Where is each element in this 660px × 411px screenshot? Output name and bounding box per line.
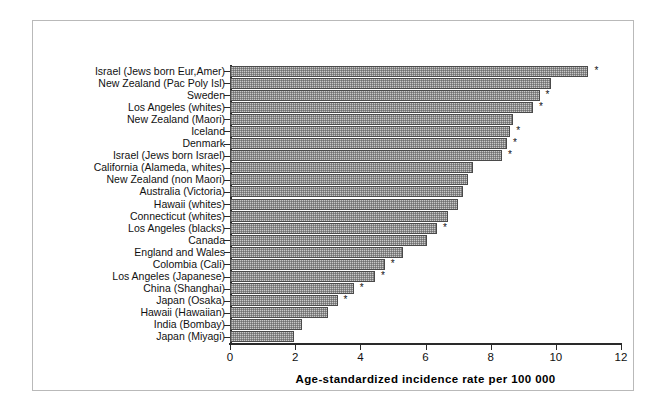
bars-container: ***********: [230, 65, 621, 343]
bar-rect: [230, 126, 510, 137]
significance-star-3: *: [546, 89, 550, 100]
bar-17: [230, 259, 385, 270]
bar-22: [230, 319, 302, 330]
bar-3: [230, 90, 540, 101]
y-label-17: Colombia (Cali): [153, 259, 225, 270]
x-tick-label-12: 12: [606, 351, 636, 364]
figure-frame: Israel (Jews born Eur,Amer)New Zealand (…: [32, 20, 634, 391]
bar-rect: [230, 259, 385, 270]
x-tick-6: [426, 344, 427, 350]
bar-8: [230, 150, 502, 161]
y-label-2: New Zealand (Pac Poly Isl): [98, 78, 225, 89]
y-label-7: Denmark: [182, 138, 225, 149]
significance-star-4: *: [539, 101, 543, 112]
bar-9: [230, 162, 473, 173]
x-axis-title: Age-standardized incidence rate per 100 …: [230, 373, 621, 385]
x-tick-label-8: 8: [476, 351, 506, 364]
bar-14: [230, 223, 437, 234]
bar-rect: [230, 186, 463, 197]
y-label-20: Japan (Osaka): [156, 295, 225, 306]
y-label-11: Australia (Victoria): [139, 186, 225, 197]
significance-star-20: *: [344, 294, 348, 305]
significance-star-6: *: [516, 125, 520, 136]
bar-rect: [230, 150, 502, 161]
bar-4: [230, 102, 533, 113]
x-tick-10: [556, 344, 557, 350]
significance-star-8: *: [508, 149, 512, 160]
significance-star-1: *: [594, 65, 598, 76]
y-label-18: Los Angeles (Japanese): [112, 271, 225, 282]
bar-rect: [230, 138, 507, 149]
x-tick-4: [360, 344, 361, 350]
bar-rect: [230, 247, 403, 258]
y-label-1: Israel (Jews born Eur,Amer): [95, 66, 225, 77]
bar-rect: [230, 174, 468, 185]
y-label-16: England and Wales: [134, 247, 225, 258]
y-label-22: India (Bombay): [154, 319, 225, 330]
bar-11: [230, 186, 463, 197]
bar-12: [230, 199, 458, 210]
bar-rect: [230, 211, 448, 222]
bar-18: [230, 271, 375, 282]
bar-2: [230, 78, 551, 89]
significance-star-18: *: [381, 270, 385, 281]
bar-rect: [230, 271, 375, 282]
y-axis-category-labels: Israel (Jews born Eur,Amer)New Zealand (…: [73, 65, 225, 343]
y-label-4: Los Angeles (whites): [128, 102, 225, 113]
y-label-23: Japan (Miyagi): [156, 331, 225, 342]
significance-star-17: *: [391, 258, 395, 269]
bar-7: [230, 138, 507, 149]
y-label-3: Sweden: [187, 90, 225, 101]
bar-1: [230, 66, 588, 77]
x-tick-label-10: 10: [541, 351, 571, 364]
bar-rect: [230, 223, 437, 234]
bar-rect: [230, 283, 354, 294]
x-tick-8: [491, 344, 492, 350]
bar-16: [230, 247, 403, 258]
bar-rect: [230, 162, 473, 173]
bar-rect: [230, 78, 551, 89]
bar-rect: [230, 114, 513, 125]
y-label-14: Los Angeles (blacks): [128, 223, 225, 234]
significance-star-14: *: [443, 222, 447, 233]
x-tick-label-4: 4: [345, 351, 375, 364]
bar-rect: [230, 235, 427, 246]
bar-rect: [230, 90, 540, 101]
y-label-19: China (Shanghai): [143, 283, 225, 294]
y-label-12: Hawaii (whites): [154, 199, 225, 210]
bar-5: [230, 114, 513, 125]
bar-13: [230, 211, 448, 222]
y-label-15: Canada: [188, 235, 225, 246]
bar-21: [230, 307, 328, 318]
figure: Israel (Jews born Eur,Amer)New Zealand (…: [0, 0, 660, 411]
y-label-21: Hawaii (Hawaiian): [140, 307, 225, 318]
bar-6: [230, 126, 510, 137]
bar-15: [230, 235, 427, 246]
bar-20: [230, 295, 338, 306]
significance-star-19: *: [360, 282, 364, 293]
y-label-6: Iceland: [191, 126, 225, 137]
bar-rect: [230, 319, 302, 330]
x-tick-label-0: 0: [215, 351, 245, 364]
bar-rect: [230, 102, 533, 113]
y-label-8: Israel (Jews born Israel): [113, 150, 225, 161]
y-label-13: Connecticut (whites): [130, 211, 225, 222]
y-label-5: New Zealand (Maori): [127, 114, 225, 125]
bar-rect: [230, 307, 328, 318]
bar-rect: [230, 295, 338, 306]
bar-19: [230, 283, 354, 294]
y-label-9: California (Alameda, whites): [94, 162, 225, 173]
bar-rect: [230, 199, 458, 210]
y-label-10: New Zealand (non Maori): [107, 174, 225, 185]
bar-rect: [230, 331, 294, 342]
bar-23: [230, 331, 294, 342]
x-tick-2: [295, 344, 296, 350]
x-tick-label-2: 2: [280, 351, 310, 364]
bar-rect: [230, 66, 588, 77]
bar-10: [230, 174, 468, 185]
x-tick-12: [621, 344, 622, 350]
significance-star-7: *: [513, 137, 517, 148]
x-tick-label-6: 6: [411, 351, 441, 364]
x-tick-0: [230, 344, 231, 350]
